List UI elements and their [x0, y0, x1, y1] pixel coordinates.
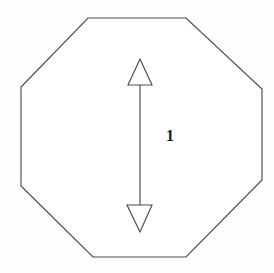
technical-drawing-svg	[0, 0, 274, 273]
reference-numeral-label: 1	[166, 128, 174, 144]
figure-canvas: 1	[0, 0, 274, 273]
